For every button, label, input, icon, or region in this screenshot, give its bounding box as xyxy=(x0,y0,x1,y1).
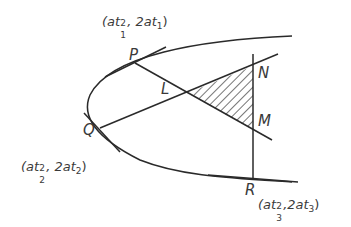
coord-q: (at22, 2at2) xyxy=(21,160,87,176)
coord-r: (at23,2at3) xyxy=(258,198,319,214)
label-l: L xyxy=(161,82,169,97)
label-q: Q xyxy=(83,123,95,138)
label-p: P xyxy=(129,48,138,63)
diagram-canvas xyxy=(0,0,351,227)
label-m: M xyxy=(258,114,271,129)
label-n: N xyxy=(258,66,269,81)
parabola-curve xyxy=(87,36,292,182)
coord-p: (at21, 2at1) xyxy=(102,15,168,31)
label-r: R xyxy=(245,183,255,198)
